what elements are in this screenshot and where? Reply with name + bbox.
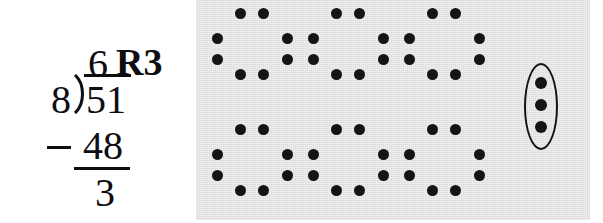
dot: [308, 149, 319, 160]
dot: [474, 33, 485, 44]
dot: [308, 170, 319, 181]
dot: [450, 8, 461, 19]
dot-group: [212, 124, 296, 196]
dot: [404, 54, 415, 65]
dot-group: [404, 8, 488, 80]
dot: [474, 170, 485, 181]
dot: [474, 54, 485, 65]
dot: [212, 33, 223, 44]
dot: [427, 124, 438, 135]
dot: [450, 69, 461, 80]
dot: [282, 33, 293, 44]
division-model-figure: 6 R3 8 51 48 3: [0, 0, 603, 223]
dot: [427, 185, 438, 196]
dot-group: [308, 8, 392, 80]
dot: [331, 124, 342, 135]
dot: [331, 69, 342, 80]
dot: [282, 170, 293, 181]
remainder-dot: [535, 99, 547, 111]
remainder-group-ellipse: [524, 63, 558, 150]
dot: [378, 149, 389, 160]
dot-group: [404, 124, 488, 196]
dot: [212, 149, 223, 160]
minus-sign-icon: [47, 146, 71, 149]
dot: [308, 33, 319, 44]
dot: [212, 170, 223, 181]
dot: [427, 69, 438, 80]
dividend-value: 51: [86, 80, 126, 120]
dot: [331, 8, 342, 19]
divisor-value: 8: [51, 80, 71, 120]
remainder-dot: [535, 77, 547, 89]
dot-group: [212, 8, 296, 80]
dot: [404, 170, 415, 181]
dot: [354, 8, 365, 19]
dot: [258, 185, 269, 196]
dot: [404, 149, 415, 160]
dot: [258, 124, 269, 135]
dot: [354, 69, 365, 80]
dot: [282, 149, 293, 160]
dot: [258, 8, 269, 19]
dot: [378, 33, 389, 44]
dot: [354, 185, 365, 196]
long-division-problem: 6 R3 8 51 48 3: [0, 0, 196, 223]
difference-value: 3: [95, 173, 115, 213]
dot-group: [308, 124, 392, 196]
dot: [474, 149, 485, 160]
dot: [378, 170, 389, 181]
dot: [450, 185, 461, 196]
dot: [331, 185, 342, 196]
dot: [282, 54, 293, 65]
dot: [258, 69, 269, 80]
dot: [308, 54, 319, 65]
subtrahend-value: 48: [83, 126, 123, 166]
dot: [235, 185, 246, 196]
dot: [212, 54, 223, 65]
dot: [404, 33, 415, 44]
dot: [378, 54, 389, 65]
remainder-dot: [535, 121, 547, 133]
dot-array-panel: [196, 0, 590, 220]
dot: [427, 8, 438, 19]
dot: [235, 124, 246, 135]
dot: [235, 69, 246, 80]
dot: [450, 124, 461, 135]
dot: [354, 124, 365, 135]
dot: [235, 8, 246, 19]
